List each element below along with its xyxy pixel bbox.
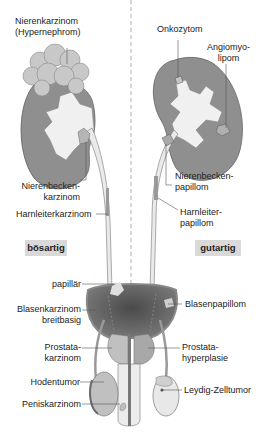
label-blasenkarzinom: Blasenkarzinom breitbasig <box>0 304 81 325</box>
badge-benign: gutartig <box>195 240 241 256</box>
label-harnleiterkarzinom: Harnleiterkarzinom <box>16 209 92 220</box>
label-papillaer: papillär <box>5 279 81 290</box>
label-leydig-zelltumor: Leydig-Zelltumor <box>184 385 251 396</box>
label-angiomyolipom: Angiomyo- lipom <box>207 42 250 63</box>
label-hodentumor: Hodentumor <box>5 377 80 388</box>
label-nierenkarzinom: Nierenkarzinom (Hypernephrom) <box>15 16 81 37</box>
label-prostatahyperplasie: Prostata- hyperplasie <box>182 342 228 363</box>
label-peniskarzinom: Peniskarzinom <box>5 399 81 410</box>
badge-malignant: bösartig <box>25 240 67 256</box>
label-nierenbeckenkarzinom: Nierenbecken- karzinom <box>5 181 80 202</box>
left-testis <box>90 372 118 416</box>
right-testis <box>153 376 179 416</box>
label-harnleiterpapillom: Harnleiter- papillom <box>180 207 222 228</box>
label-nierenbeckenpapillom: Nierenbecken- papillom <box>175 171 234 192</box>
label-onkozytom: Onkozytom <box>157 24 203 35</box>
label-blasenpapillom: Blasenpapillom <box>185 299 246 310</box>
label-prostatakarzinom: Prostata- karzinom <box>5 342 81 363</box>
